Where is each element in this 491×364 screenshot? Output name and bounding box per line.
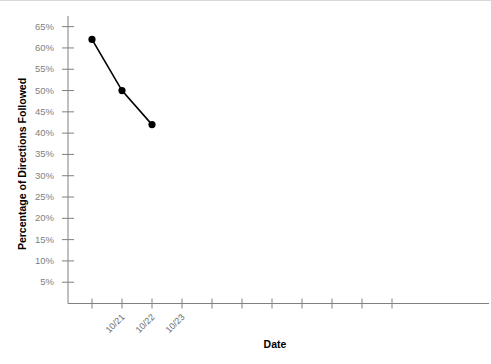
x-axis-title: Date (60, 338, 490, 350)
data-point-marker[interactable]: 10/21: 62% (88, 36, 95, 43)
data-point-marker[interactable]: 10/23: 42% (148, 121, 155, 128)
line-chart: 10/21: 62%10/22: 50%10/23: 42% 5%10%15%2… (0, 0, 491, 364)
data-series-line (92, 39, 152, 124)
y-tick-label: 60% (20, 43, 54, 53)
series-polyline (92, 39, 152, 124)
y-axis-title: Percentage of Directions Followed (16, 64, 28, 264)
y-tick-label: 65% (20, 22, 54, 32)
axis-lines (68, 16, 489, 304)
y-tick-label: 5% (20, 277, 54, 287)
plot-area: 10/21: 62%10/22: 50%10/23: 42% (0, 0, 491, 364)
data-point-marker[interactable]: 10/22: 50% (118, 87, 125, 94)
